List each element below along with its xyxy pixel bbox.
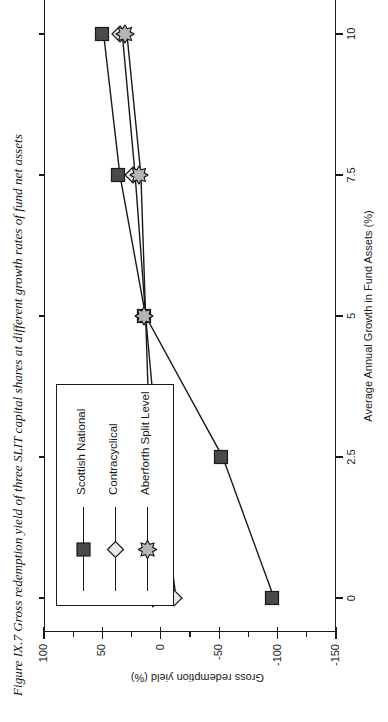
y-tick: [277, 632, 278, 639]
x-tick-label: 5: [345, 296, 357, 336]
y-minor-tick: [131, 632, 132, 637]
square-marker: [263, 589, 286, 608]
x-tick: [336, 315, 343, 316]
y-minor-tick: [189, 632, 190, 637]
x-tick-label: 7.5: [345, 155, 357, 195]
y-tick: [102, 632, 103, 639]
y-minor-tick: [248, 632, 249, 637]
x-tick-top: [39, 315, 44, 316]
x-tick: [336, 456, 343, 457]
x-tick-label: 0: [345, 578, 357, 618]
legend-box: Scottish NationalContracyclicalAberforth…: [56, 384, 174, 606]
legend-label: Contracyclical: [107, 423, 119, 495]
y-tick-inner: [43, 627, 44, 632]
y-tick-inner: [219, 627, 220, 632]
y-tick-label: 50: [95, 644, 107, 684]
y-minor-tick: [73, 632, 74, 637]
y-tick: [335, 632, 336, 639]
y-tick-inner: [160, 627, 161, 632]
square-marker: [211, 448, 234, 467]
y-tick: [43, 632, 44, 639]
x-tick-top: [39, 456, 44, 457]
legend-label: Aberforth Split Level: [139, 391, 151, 495]
y-tick-inner: [335, 627, 336, 632]
y-minor-tick: [306, 632, 307, 637]
y-tick-label: -100: [271, 644, 283, 684]
x-tick: [336, 33, 343, 34]
diamond-marker: [106, 540, 129, 559]
x-tick-top: [39, 33, 44, 34]
star-marker: [115, 24, 138, 43]
legend-item: Contracyclical: [101, 383, 131, 605]
x-tick: [336, 174, 343, 175]
star-marker: [129, 165, 152, 184]
y-tick-label: 100: [37, 644, 49, 684]
x-tick-top: [39, 174, 44, 175]
plot-area: 02.557.510 100500-50-100-150 Average Ann…: [0, 0, 388, 702]
legend-item: Aberforth Split Level: [133, 383, 163, 605]
x-axis-title: Average Annual Growth in Fund Assets (%): [362, 0, 374, 632]
legend-item: Scottish National: [69, 383, 99, 605]
x-tick-label: 2.5: [345, 437, 357, 477]
y-tick: [219, 632, 220, 639]
chart-figure: 02.557.510 100500-50-100-150 Average Ann…: [0, 0, 388, 702]
star-marker: [138, 540, 161, 559]
y-tick-inner: [277, 627, 278, 632]
x-tick-label: 10: [345, 14, 357, 54]
y-tick: [160, 632, 161, 639]
square-marker: [74, 540, 97, 559]
y-axis-title: Gross redemption yield (%): [131, 672, 264, 684]
x-tick-top: [39, 597, 44, 598]
legend-label: Scottish National: [75, 409, 87, 495]
star-marker: [134, 307, 157, 326]
y-tick-label: -150: [329, 644, 341, 684]
x-tick: [336, 597, 343, 598]
y-tick-inner: [102, 627, 103, 632]
